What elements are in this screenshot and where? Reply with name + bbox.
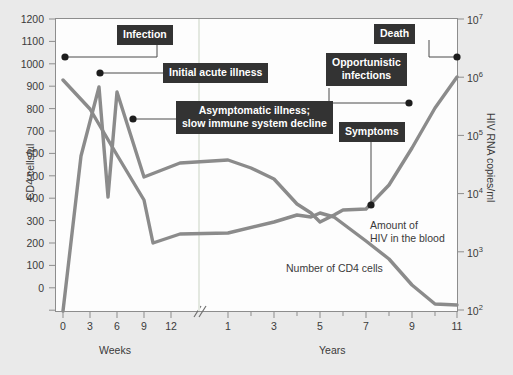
ytick-left-0: 0	[4, 282, 44, 294]
y-axis-left-title: CD4 cells/µl	[24, 144, 36, 200]
ytick-left-300: 300	[4, 215, 44, 227]
dot-infection	[61, 53, 68, 60]
dot-death	[453, 53, 460, 60]
ytick-left-100: 100	[4, 259, 44, 271]
callout-death[interactable]: Death	[374, 24, 415, 44]
ytick-left-1000: 1000	[4, 58, 44, 70]
x-axis-weeks-title: Weeks	[99, 344, 131, 356]
callout-infection[interactable]: Infection	[117, 25, 173, 45]
ytick-right-1e2: 102	[467, 303, 509, 317]
xtick-year-11: 11	[444, 320, 470, 332]
xtick-week-0: 0	[50, 320, 76, 332]
xtick-year-3: 3	[261, 320, 287, 332]
dot-opportunistic	[405, 99, 412, 106]
ytick-left-1100: 1100	[4, 35, 44, 47]
dot-initial-acute-illness	[96, 69, 103, 76]
dot-asymptomatic	[129, 115, 136, 122]
callout-initial-acute-illness[interactable]: Initial acute illness	[163, 63, 268, 83]
left-axis-ticks	[49, 19, 55, 310]
label-hiv-in-blood: Amount of HIV in the blood	[370, 219, 445, 245]
xtick-week-3: 3	[77, 320, 103, 332]
xtick-week-12: 12	[158, 320, 184, 332]
dot-symptoms	[367, 201, 374, 208]
ytick-left-700: 700	[4, 125, 44, 137]
ytick-left-900: 900	[4, 80, 44, 92]
callout-symptoms[interactable]: Symptoms	[339, 122, 405, 142]
ytick-right-1e6: 106	[467, 70, 509, 84]
ytick-right-1e7: 107	[467, 12, 509, 26]
bottom-axis-ticks	[63, 312, 457, 318]
callout-asymptomatic-illness[interactable]: Asymptomatic illness; slow immune system…	[176, 101, 333, 134]
xtick-week-9: 9	[131, 320, 157, 332]
y-axis-right-title: HIV RNA copies/ml	[485, 113, 497, 202]
xtick-year-7: 7	[353, 320, 379, 332]
label-number-cd4-cells: Number of CD4 cells	[286, 262, 383, 275]
x-axis-years-title: Years	[319, 344, 345, 356]
xtick-year-9: 9	[399, 320, 425, 332]
xtick-week-6: 6	[104, 320, 130, 332]
ytick-left-200: 200	[4, 237, 44, 249]
chart-svg	[0, 0, 513, 375]
ytick-left-800: 800	[4, 103, 44, 115]
ytick-left-1200: 1200	[4, 13, 44, 25]
xtick-year-1: 1	[215, 320, 241, 332]
ytick-right-1e3: 103	[467, 245, 509, 259]
right-axis-ticks	[458, 19, 464, 310]
hiv-progression-chart: 1200 1100 1000 900 800 700 600 500 400 3…	[0, 0, 513, 375]
xtick-year-5: 5	[307, 320, 333, 332]
callout-opportunistic-infections[interactable]: Opportunistic infections	[326, 53, 407, 86]
